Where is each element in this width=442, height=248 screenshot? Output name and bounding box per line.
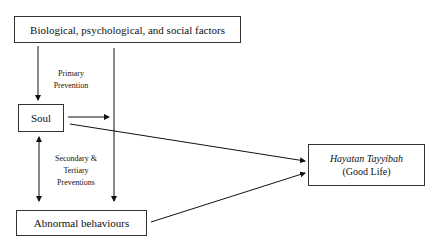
secondary-tertiary-label: Secondary & Tertiary Preventions bbox=[46, 153, 106, 189]
factors-box: Biological, psychological, and social fa… bbox=[14, 16, 241, 43]
primary-prevention-label: Primary Prevention bbox=[46, 68, 96, 92]
good-life-box: Hayatan Tayyibah (Good Life) bbox=[308, 144, 425, 186]
abnormal-box: Abnormal behaviours bbox=[16, 210, 147, 236]
soul-box: Soul bbox=[18, 104, 64, 132]
good-life-subtitle: (Good Life) bbox=[342, 165, 390, 178]
soul-label: Soul bbox=[31, 112, 51, 124]
abnormal-label: Abnormal behaviours bbox=[34, 217, 130, 229]
factors-label: Biological, psychological, and social fa… bbox=[30, 24, 225, 36]
good-life-title: Hayatan Tayyibah bbox=[330, 152, 403, 165]
arrow-abnormal-to-goodlife bbox=[151, 173, 305, 222]
